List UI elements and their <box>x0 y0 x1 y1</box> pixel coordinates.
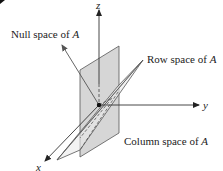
row-space-label: Row space of A <box>147 53 217 65</box>
null-space-label: Null space of A <box>11 28 79 40</box>
fundamental-subspaces-diagram: z y x Null space of A Row space of A Col… <box>0 0 223 171</box>
x-axis-label: x <box>35 161 41 171</box>
corner-fragment <box>0 0 5 4</box>
y-axis-label: y <box>202 99 208 111</box>
column-space-label: Column space of A <box>124 135 208 147</box>
origin-point <box>97 103 101 107</box>
z-axis-label: z <box>95 0 101 11</box>
